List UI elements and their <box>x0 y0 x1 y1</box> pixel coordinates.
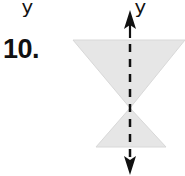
symmetry-figure <box>0 0 185 176</box>
arrow-down-icon <box>124 156 136 175</box>
